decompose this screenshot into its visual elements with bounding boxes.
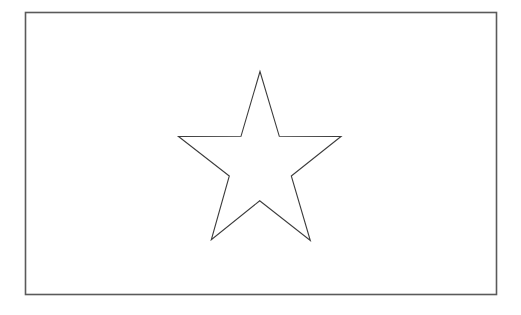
figure-canvas [0,0,521,315]
flag-frame [26,13,497,295]
